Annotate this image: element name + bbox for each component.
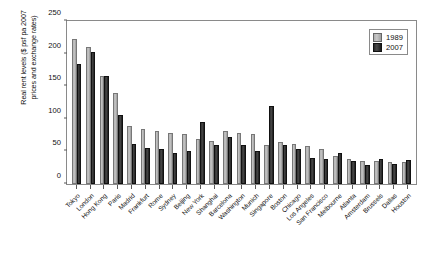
bar-group bbox=[221, 21, 235, 184]
bar-group bbox=[180, 21, 194, 184]
bar-2007 bbox=[214, 145, 219, 184]
bar-2007 bbox=[91, 52, 96, 184]
legend-swatch-1989-icon bbox=[373, 33, 382, 42]
bar-group bbox=[276, 21, 290, 184]
bar-group bbox=[70, 21, 84, 184]
bar-group bbox=[303, 21, 317, 184]
y-axis-tick-label: 150 bbox=[48, 73, 67, 82]
bar-2007 bbox=[118, 115, 123, 184]
bar-group bbox=[84, 21, 98, 184]
plot-area: 050100150200250 1989 2007 bbox=[66, 20, 417, 185]
bar-group bbox=[139, 21, 153, 184]
bar-2007 bbox=[77, 64, 82, 184]
bar-2007 bbox=[296, 149, 301, 184]
bar-group bbox=[235, 21, 249, 184]
bar-2007 bbox=[338, 153, 343, 184]
legend-item-2007: 2007 bbox=[373, 42, 403, 52]
bar-2007 bbox=[132, 144, 137, 184]
bar-2007 bbox=[310, 158, 315, 184]
bar-group bbox=[207, 21, 221, 184]
bar-2007 bbox=[392, 164, 397, 184]
x-axis-label-cell: Houston bbox=[400, 190, 414, 256]
y-axis-title: Real rent levels ($ psf pa 2007 prices a… bbox=[19, 0, 38, 138]
bar-2007 bbox=[324, 159, 329, 184]
bar-group bbox=[166, 21, 180, 184]
bar-group bbox=[317, 21, 331, 184]
legend-label-1989: 1989 bbox=[386, 33, 403, 42]
bar-group bbox=[193, 21, 207, 184]
bar-2007 bbox=[365, 165, 370, 184]
bar-group bbox=[331, 21, 345, 184]
y-axis-tick-label: 0 bbox=[57, 171, 67, 180]
bar-group bbox=[248, 21, 262, 184]
bar-2007 bbox=[255, 151, 260, 184]
legend: 1989 2007 bbox=[369, 29, 408, 55]
legend-label-2007: 2007 bbox=[386, 43, 403, 52]
bar-group bbox=[111, 21, 125, 184]
y-axis-tick-label: 50 bbox=[53, 138, 67, 147]
bar-2007 bbox=[283, 145, 288, 184]
bar-2007 bbox=[406, 160, 411, 184]
bar-groups bbox=[67, 21, 416, 184]
legend-item-1989: 1989 bbox=[373, 32, 403, 42]
bar-2007 bbox=[241, 145, 246, 184]
bar-2007 bbox=[104, 76, 109, 184]
bar-group bbox=[125, 21, 139, 184]
y-axis-tick-label: 250 bbox=[48, 8, 67, 17]
legend-swatch-2007-icon bbox=[373, 43, 382, 52]
bar-2007 bbox=[159, 149, 164, 184]
y-axis-tick-label: 200 bbox=[48, 40, 67, 49]
bar-2007 bbox=[351, 161, 356, 184]
bar-2007 bbox=[269, 106, 274, 184]
bar-group bbox=[262, 21, 276, 184]
bar-group bbox=[290, 21, 304, 184]
bar-2007 bbox=[379, 159, 384, 184]
x-axis-labels: TokyoLondonHong KongParisMadridFrankfurt… bbox=[66, 190, 417, 256]
bar-2007 bbox=[200, 122, 205, 184]
bar-group bbox=[344, 21, 358, 184]
bar-group bbox=[152, 21, 166, 184]
bar-2007 bbox=[145, 148, 150, 184]
bar-group bbox=[97, 21, 111, 184]
bar-chart: Real rent levels ($ psf pa 2007 prices a… bbox=[0, 0, 437, 259]
bar-2007 bbox=[173, 153, 178, 184]
bar-2007 bbox=[187, 151, 192, 184]
y-axis-tick-label: 100 bbox=[48, 105, 67, 114]
bar-2007 bbox=[228, 137, 233, 184]
